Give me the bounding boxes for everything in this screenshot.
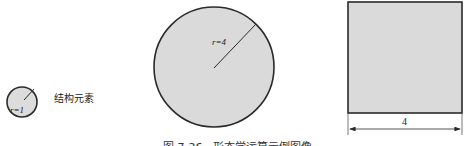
- figure-caption: 图 7-26 形态学运算示例图像: [163, 140, 312, 146]
- big-radius-label: r=4: [212, 37, 227, 47]
- structuring-element: r=1 结构元素: [7, 87, 94, 117]
- square-rect: [348, 2, 462, 113]
- structuring-element-title: 结构元素: [54, 92, 94, 104]
- square-shape: 4: [348, 2, 462, 135]
- small-radius-label: r=1: [10, 105, 24, 115]
- big-circle-shape: [154, 7, 274, 127]
- disk-shape: r=4: [154, 7, 274, 127]
- square-width-label: 4: [402, 116, 407, 127]
- morphology-figure: r=1 结构元素 r=4 4 图 7-26 形态学运算示例图像: [0, 0, 465, 146]
